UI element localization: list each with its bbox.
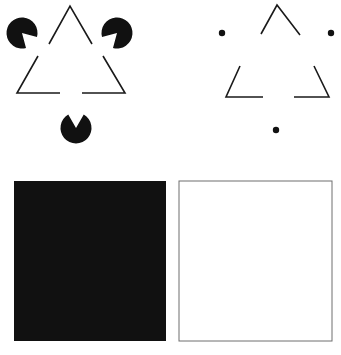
illusory-contour-figure <box>0 0 341 355</box>
white-square <box>179 181 332 341</box>
top-right-dot-icon <box>328 30 334 36</box>
figure-root: Illusory contour demonstration <box>0 0 341 355</box>
black-square <box>14 181 166 341</box>
top-left-dot-icon <box>219 30 225 36</box>
bottom-dot-icon <box>273 127 279 133</box>
